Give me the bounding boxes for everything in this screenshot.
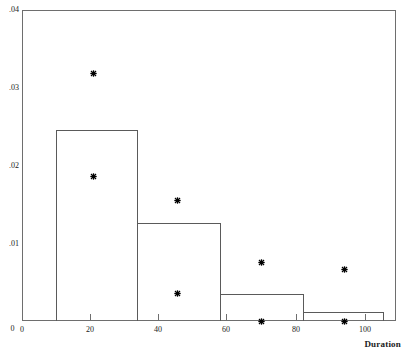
x-axis-title: Duration — [364, 339, 401, 349]
histogram-bar — [56, 130, 138, 321]
scatter-point-marker — [174, 290, 181, 297]
y-tick-label: .03 — [0, 84, 19, 92]
x-tick-label: 100 — [350, 325, 380, 334]
y-tick-label: .01 — [0, 240, 19, 248]
y-tick-label: .04 — [0, 6, 19, 14]
x-tick-label: 0 — [7, 325, 37, 334]
scatter-point-marker — [90, 173, 97, 180]
histogram-chart: .04 .03 .02 .01 0 0 20 40 60 80 100 — [0, 0, 407, 354]
histogram-bar — [137, 223, 221, 321]
scatter-point-marker — [258, 259, 265, 266]
y-tick-label: .02 — [0, 162, 19, 170]
scatter-point-marker — [341, 266, 348, 273]
x-tick-label: 80 — [281, 325, 311, 334]
scatter-point-marker — [90, 70, 97, 77]
scatter-point-marker — [341, 318, 348, 325]
scatter-point-marker — [258, 318, 265, 325]
x-tick-label: 20 — [75, 325, 105, 334]
x-tick-label: 40 — [143, 325, 173, 334]
x-tick-label: 60 — [211, 325, 241, 334]
scatter-point-marker — [174, 197, 181, 204]
